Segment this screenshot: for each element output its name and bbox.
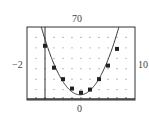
grid-dot [71, 79, 72, 80]
grid-dot [98, 89, 99, 90]
data-point [97, 77, 101, 81]
graph-window [0, 0, 149, 120]
grid-dot [125, 58, 126, 59]
data-point [70, 87, 74, 91]
grid-dot [53, 37, 54, 38]
data-point [115, 47, 119, 51]
grid-dot [125, 47, 126, 48]
grid-dot [80, 68, 81, 69]
grid-dot [125, 89, 126, 90]
grid-dot [53, 89, 54, 90]
grid-dot [80, 79, 81, 80]
grid-dot [71, 68, 72, 69]
grid-dot [53, 58, 54, 59]
data-point [61, 77, 65, 81]
grid-dot [80, 47, 81, 48]
grid-dot [125, 37, 126, 38]
grid-dot [89, 79, 90, 80]
data-point [52, 66, 56, 70]
grid-dot [116, 79, 117, 80]
grid-dot [80, 58, 81, 59]
grid-dot [53, 47, 54, 48]
grid-dot [35, 47, 36, 48]
grid-dot [107, 79, 108, 80]
grid-dot [71, 47, 72, 48]
grid-dot [116, 37, 117, 38]
grid-dot [116, 89, 117, 90]
model-curve [27, 25, 135, 95]
data-point [43, 44, 47, 48]
grid-dot [125, 68, 126, 69]
grid-dot [107, 47, 108, 48]
data-point [79, 91, 83, 95]
grid-dot [71, 58, 72, 59]
grid-dot [89, 37, 90, 38]
grid-dot [98, 47, 99, 48]
grid-dot [62, 68, 63, 69]
grid-dot [80, 89, 81, 90]
grid-dot [98, 58, 99, 59]
grid-dot [107, 37, 108, 38]
grid-dot [53, 79, 54, 80]
grid-dot [98, 68, 99, 69]
data-point [88, 88, 92, 92]
grid-dot [89, 58, 90, 59]
grid-dot [62, 37, 63, 38]
grid-dot [62, 89, 63, 90]
grid-dot [98, 37, 99, 38]
grid-dot [35, 68, 36, 69]
grid-dot [35, 58, 36, 59]
grid-dot [89, 68, 90, 69]
grid-dot [107, 89, 108, 90]
grid-dot [116, 68, 117, 69]
grid-dot [62, 58, 63, 59]
grid-dot [89, 47, 90, 48]
grid-dot [107, 68, 108, 69]
grid-dot [35, 79, 36, 80]
data-point [106, 64, 110, 68]
grid-dot [71, 37, 72, 38]
grid-dot [62, 47, 63, 48]
grid-dot [35, 37, 36, 38]
grid-dot [125, 79, 126, 80]
grid-dot [80, 37, 81, 38]
grid-dot [35, 89, 36, 90]
grid-dot [116, 58, 117, 59]
